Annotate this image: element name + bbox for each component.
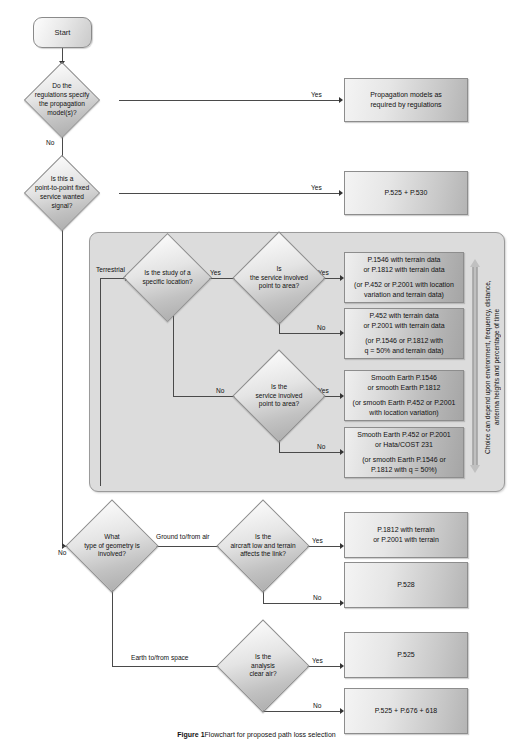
diamond-shape [216,619,309,712]
edge-label-ground-to-from-air: Ground to/from air [156,533,210,540]
node-decision-clear-air[interactable]: Is the analysis clear air? [230,633,296,699]
node-box-smooth-p452-hata[interactable]: Smooth Earth P.452 or P.2001 or Hata/COS… [344,427,464,478]
node-box-smooth-p1546[interactable]: Smooth Earth P.1546 or smooth Earth P.18… [344,370,464,421]
connector-regulations-yes [119,100,341,101]
flowchart-figure: Yes No Yes No Terrestrial Yes No Yes No … [0,0,513,741]
connector-aircraft-no-h [263,603,342,604]
text-line: P.1812 with q = 50%) [357,465,451,475]
connector-terrestrial-riser [100,278,101,486]
text-line: Propagation models as [370,90,442,100]
diamond-shape [216,499,309,592]
text-line: P.525 + P.676 + 618 [375,706,437,716]
edge-label-regulations-no: No [46,139,54,146]
connector-clearair-no-h [263,711,342,712]
connector-p2p-no-spine [62,230,63,546]
edge-label-terrestrial: Terrestrial [96,266,125,273]
arrow-head-down [470,465,480,473]
node-decision-geometry[interactable]: What type of geometry is involved? [79,513,145,579]
arrowhead-regulations-yes [339,97,343,103]
edge-label-regulations-yes: Yes [311,91,322,98]
diamond-shape [232,231,325,324]
text-line: (or smooth Earth P.452 or P.2001 [353,398,456,408]
node-box-p452-terrain[interactable]: P.452 with terrain data or P.2001 with t… [344,308,464,359]
text-line: or P.2001 with terrain [373,535,439,545]
node-decision-aircraft-low[interactable]: Is the aircraft low and terrain affects … [230,513,296,579]
text-line: with location variation) [353,408,456,418]
text-line: (or smooth Earth P.1546 or [357,455,451,465]
edge-label-clearair-yes: Yes [312,657,323,664]
text-line: P.528 [397,580,414,590]
node-decision-point-to-point[interactable]: Is this a point-to-point fixed service w… [35,166,89,220]
diamond-shape [123,233,212,322]
text-line: P.452 with terrain data [363,311,444,321]
node-decision-regulations[interactable]: Do the regulations specify the propagati… [35,73,89,127]
arrowhead-p2p-yes [339,190,343,196]
figure-caption: Figure 1Flowchart for proposed path loss… [0,731,513,738]
text-line: P.1812 with terrain [373,525,439,535]
edge-label-clearair-no: No [313,702,321,709]
text-line: or P.1812 with terrain data [354,265,454,275]
edge-label-p2p-yes: Yes [311,184,322,191]
text-line: P.525 [397,650,414,660]
text-line: q = 50% and terrain data) [363,346,444,356]
figure-caption-label: Figure 1 [177,731,204,738]
connector-specific-no-v [173,316,174,396]
node-box-propagation-models[interactable]: Propagation models as required by regula… [344,78,468,122]
text-line: or Hata/COST 231 [357,440,451,450]
text-line: P.525 + P.530 [385,188,428,198]
node-box-p1546-terrain[interactable]: P.1546 with terrain data or P.1812 with … [344,252,464,303]
connector-geometry-space-h [112,666,226,667]
node-decision-specific-location[interactable]: Is the study of a specific location? [136,246,199,309]
diamond-shape [65,499,158,592]
edge-label-specific-no: No [216,387,224,394]
annotation-choice-note: Choice can depend upon environment, freq… [484,247,502,487]
text-line: Smooth Earth P.1546 [353,373,456,383]
connector-geometry-space-v [112,580,113,666]
node-decision-point-to-area-2[interactable]: Is the service involved point to area? [246,363,312,429]
node-box-p525-p530[interactable]: P.525 + P.530 [344,171,468,215]
node-box-p525-p676-618[interactable]: P.525 + P.676 + 618 [344,688,468,734]
text-line: Smooth Earth P.452 or P.2001 [357,430,451,440]
text-line: or P.2001 with terrain data [363,321,444,331]
edge-label-pta2-no: No [317,443,325,450]
text-line: or smooth Earth P.1812 [353,383,456,393]
edge-label-geometry-entry: No [58,549,66,556]
connector-p2p-yes [119,193,341,194]
connector-pta1-no-h [279,333,342,334]
text-line: (or P.452 or P.2001 with location [354,280,454,290]
diamond-shape [24,62,100,138]
node-start[interactable]: Start [33,17,92,48]
edge-label-pta1-no: No [317,324,325,331]
diamond-shape [232,349,325,442]
node-decision-point-to-area-1[interactable]: Is the service involved point to area? [246,245,312,311]
edge-label-earth-to-from-space: Earth to/from space [131,654,189,661]
diamond-shape [24,155,100,231]
text-line: (or P.1546 or P.1812 with [363,336,444,346]
node-box-p1812-terrain[interactable]: P.1812 with terrain or P.2001 with terra… [344,512,468,558]
node-box-p528[interactable]: P.528 [344,562,468,608]
connector-pta2-no-h [279,452,342,453]
figure-caption-text: Flowchart for proposed path loss selecti… [205,731,336,738]
choice-range-double-arrow-icon [468,259,482,473]
text-line: required by regulations [370,100,442,110]
text-line: variation and terrain data) [354,290,454,300]
text-line: P.1546 with terrain data [354,255,454,265]
edge-label-aircraft-yes: Yes [312,537,323,544]
node-box-p525[interactable]: P.525 [344,632,468,678]
arrow-shaft [473,267,478,465]
arrow-head-up [470,259,480,267]
edge-label-specific-yes: Yes [210,269,221,276]
edge-label-aircraft-no: No [313,594,321,601]
